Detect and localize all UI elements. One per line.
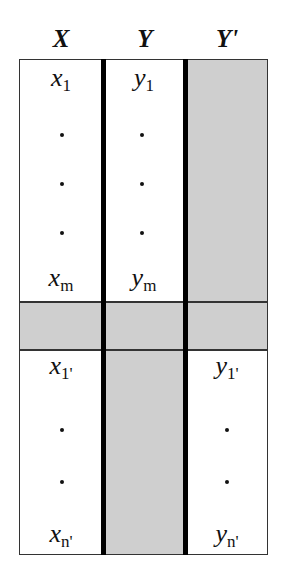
ellipsis-dot <box>60 480 64 484</box>
sub: n' <box>61 532 73 551</box>
ellipsis-dot <box>140 133 144 137</box>
cell-ym: ym <box>103 264 185 300</box>
cell-xnprime: xn' <box>20 520 102 556</box>
cell-x1prime: x1' <box>20 352 102 388</box>
shaded-separator-band <box>20 302 267 350</box>
var-y: y <box>215 351 227 380</box>
cell-x1: x1 <box>20 64 102 100</box>
ellipsis-dot <box>225 480 229 484</box>
column-divider-2 <box>183 59 188 555</box>
ellipsis-dot <box>60 182 64 186</box>
sub: n' <box>227 532 239 551</box>
sub: m <box>60 276 73 295</box>
header-y: Y <box>104 26 186 52</box>
cell-xm: xm <box>20 264 102 300</box>
header-yprime: Y' <box>186 26 268 52</box>
cell-y1: y1 <box>103 64 185 100</box>
header-x: X <box>20 26 102 52</box>
ellipsis-dot <box>60 133 64 137</box>
sub: m <box>143 276 156 295</box>
ellipsis-dot <box>225 428 229 432</box>
var-x: x <box>51 63 63 92</box>
shaded-yprime-top <box>188 60 267 302</box>
ellipsis-dot <box>140 182 144 186</box>
separator-line-top <box>19 301 268 303</box>
var-x: x <box>49 519 61 548</box>
ellipsis-dot <box>60 428 64 432</box>
sub: 1 <box>146 76 155 95</box>
ellipsis-dot <box>60 231 64 235</box>
shaded-y-bottom <box>106 350 184 554</box>
sub: 1 <box>63 76 72 95</box>
var-y: y <box>134 63 146 92</box>
var-y: y <box>132 263 144 292</box>
var-x: x <box>49 263 61 292</box>
sub: 1' <box>227 364 239 383</box>
cell-y1prime: y1' <box>186 352 268 388</box>
var-x: x <box>49 351 61 380</box>
column-divider-1 <box>101 59 106 555</box>
ellipsis-dot <box>140 231 144 235</box>
cell-ynprime: yn' <box>186 520 268 556</box>
sub: 1' <box>61 364 73 383</box>
var-y: y <box>215 519 227 548</box>
